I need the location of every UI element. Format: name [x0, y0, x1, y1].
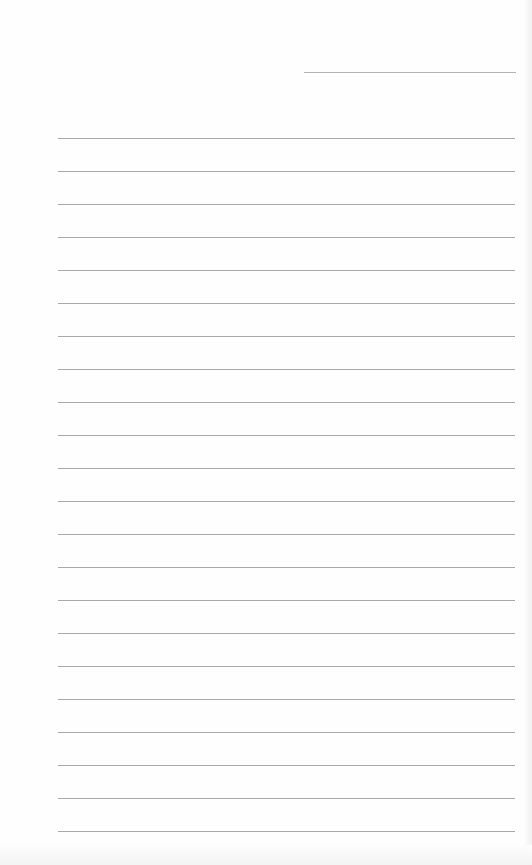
ruled-line — [58, 369, 515, 370]
lined-paper-page — [0, 0, 532, 865]
ruled-line — [58, 666, 515, 667]
page-edge-shadow — [524, 0, 532, 865]
ruled-line — [58, 237, 515, 238]
ruled-line — [58, 600, 515, 601]
ruled-line — [58, 402, 515, 403]
ruled-line — [58, 567, 515, 568]
ruled-line — [58, 765, 515, 766]
ruled-line — [58, 171, 515, 172]
ruled-line — [58, 435, 515, 436]
page-bottom-shadow — [0, 845, 532, 865]
ruled-line — [58, 303, 515, 304]
ruled-line — [58, 501, 515, 502]
header-date-line — [304, 72, 516, 73]
ruled-line — [58, 204, 515, 205]
ruled-line — [58, 732, 515, 733]
ruled-line — [58, 336, 515, 337]
ruled-line — [58, 270, 515, 271]
ruled-line — [58, 831, 515, 832]
ruled-line — [58, 798, 515, 799]
ruled-line — [58, 534, 515, 535]
ruled-line — [58, 699, 515, 700]
ruled-line — [58, 468, 515, 469]
ruled-line — [58, 138, 515, 139]
ruled-line — [58, 633, 515, 634]
